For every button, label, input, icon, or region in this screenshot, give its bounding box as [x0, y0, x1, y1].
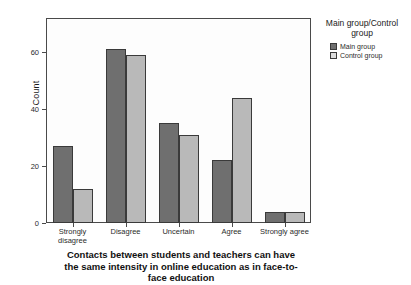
legend-item-label: Control group	[340, 52, 382, 59]
legend-title-line: group	[316, 28, 408, 38]
x-tick-label: Uncertain	[148, 228, 209, 237]
legend-item[interactable]: Control group	[330, 52, 408, 59]
bar-main	[106, 49, 126, 223]
chart-title-line: Contacts between students and teachers c…	[40, 249, 322, 261]
bar-main	[212, 160, 232, 223]
y-tick-label: 20	[15, 162, 39, 171]
chart-title-line: the same intensity in online education a…	[40, 261, 322, 273]
y-axis-title: Count	[31, 61, 41, 125]
bar-group	[152, 18, 205, 223]
bar-group	[46, 18, 99, 223]
bar-group	[205, 18, 258, 223]
bars-layer	[46, 18, 311, 223]
legend-swatch-icon	[330, 52, 337, 59]
bar-control	[179, 135, 199, 223]
bar-main	[53, 146, 73, 223]
bar-main	[159, 123, 179, 223]
y-tick-label: 60	[15, 48, 39, 57]
bar-control	[232, 98, 252, 223]
bar-chart: Count 0204060 Strongly disagreeDisagreeU…	[0, 0, 411, 285]
legend: Main group/Controlgroup Main groupContro…	[316, 18, 408, 61]
x-tick-label: Disagree	[95, 228, 156, 237]
x-tick-label: Strongly agree	[254, 228, 315, 237]
chart-title-line: face education	[40, 272, 322, 284]
chart-title: Contacts between students and teachers c…	[40, 249, 322, 284]
legend-items: Main groupControl group	[316, 43, 408, 59]
y-tick-label: 40	[15, 105, 39, 114]
bar-control	[285, 212, 305, 223]
x-tick-label: Agree	[201, 228, 262, 237]
y-tick-label: 0	[15, 219, 39, 228]
bar-group	[99, 18, 152, 223]
x-tick-label: Strongly disagree	[42, 228, 103, 245]
bar-group	[258, 18, 311, 223]
legend-swatch-icon	[330, 43, 337, 50]
legend-item-label: Main group	[340, 43, 375, 50]
legend-item[interactable]: Main group	[330, 43, 408, 50]
bar-control	[126, 55, 146, 223]
legend-title-line: Main group/Control	[316, 18, 408, 28]
y-tick-mark	[42, 223, 46, 224]
bar-control	[73, 189, 93, 223]
legend-title: Main group/Controlgroup	[316, 18, 408, 38]
bar-main	[265, 212, 285, 223]
